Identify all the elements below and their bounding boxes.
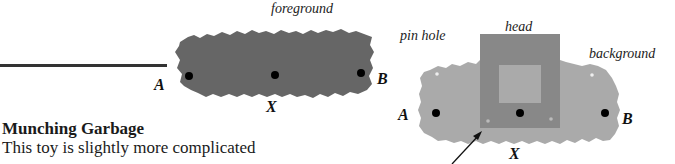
foreground-dot-b (357, 69, 365, 77)
pin-hole-top-right (590, 73, 594, 77)
stick-line (0, 64, 167, 67)
pin-hole-head-left (486, 119, 490, 123)
head-inner-square (499, 65, 541, 103)
label-left-x: X (266, 98, 277, 116)
label-left-b: B (377, 70, 388, 88)
label-pin-hole: pin hole (400, 28, 446, 44)
label-background: background (589, 46, 655, 62)
label-head: head (505, 19, 532, 35)
section-title: Munching Garbage (2, 119, 144, 139)
label-right-a: A (398, 106, 409, 124)
section-body: This toy is slightly more complicated (2, 138, 256, 158)
label-foreground: foreground (271, 1, 333, 17)
pin-hole-top-left (435, 72, 439, 76)
background-dot-b (601, 109, 609, 117)
label-right-x: X (509, 145, 520, 163)
foreground-dot-a (185, 72, 193, 80)
foreground-dot-x (271, 71, 279, 79)
pin-hole-head-right (549, 117, 553, 121)
label-right-b: B (622, 110, 633, 128)
label-left-a: A (154, 76, 165, 94)
foreground-shape (175, 29, 374, 98)
background-dot-x (516, 109, 524, 117)
background-dot-a (432, 109, 440, 117)
